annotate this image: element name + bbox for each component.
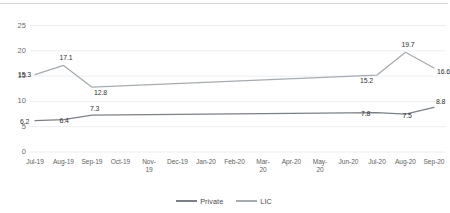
x-tick-label: May-20 <box>305 158 335 175</box>
data-label: 8.8 <box>436 98 445 105</box>
x-tick-label: Sep-19 <box>77 158 107 166</box>
data-label: 7.3 <box>90 105 99 112</box>
y-tick-label: 0 <box>0 147 26 156</box>
x-tick-label: Jul-20 <box>362 158 392 166</box>
chart-legend: PrivateLIC <box>0 193 448 209</box>
x-tick-label: Aug-20 <box>391 158 421 166</box>
x-tick-label: Nov-19 <box>134 158 164 175</box>
legend-entry-lic[interactable]: LIC <box>236 197 272 206</box>
x-tick-label: Mar-20 <box>248 158 278 175</box>
gridlines <box>30 26 446 153</box>
legend-swatch-icon <box>176 200 197 202</box>
x-tick-label: Sep-20 <box>419 158 449 166</box>
x-tick-label: Oct-19 <box>106 158 136 166</box>
x-tick-label: Aug-19 <box>49 158 79 166</box>
legend-entry-private[interactable]: Private <box>176 197 223 206</box>
data-label: 7.5 <box>403 112 412 119</box>
x-tick-label: Jul-19 <box>20 158 50 166</box>
data-label: 17.1 <box>60 54 73 61</box>
data-label: 6.4 <box>60 117 69 124</box>
data-label: 15.2 <box>360 77 373 84</box>
x-tick-label: Apr-20 <box>277 158 307 166</box>
legend-label: Private <box>200 197 223 206</box>
data-label: 16.6 <box>437 68 450 75</box>
x-tick-label: Dec-19 <box>163 158 193 166</box>
data-label: 6.2 <box>20 118 29 125</box>
data-label: 15.3 <box>18 71 31 78</box>
x-tick-label: Feb-20 <box>220 158 250 166</box>
y-tick-label: 25 <box>0 21 26 30</box>
data-label: 12.8 <box>94 89 107 96</box>
y-tick-label: 20 <box>0 46 26 55</box>
legend-label: LIC <box>260 197 272 206</box>
x-tick-label: Jan-20 <box>191 158 221 166</box>
data-label: 19.7 <box>402 41 415 48</box>
series-line-lic <box>35 52 434 87</box>
y-tick-label: 10 <box>0 96 26 105</box>
legend-swatch-icon <box>236 200 257 202</box>
x-tick-label: Jun-20 <box>334 158 364 166</box>
data-label: 7.8 <box>361 110 370 117</box>
